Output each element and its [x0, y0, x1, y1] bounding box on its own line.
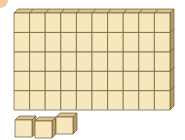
rod-cube-front — [61, 71, 77, 90]
unit-cube-front — [15, 120, 32, 137]
rod-cube-front — [76, 32, 92, 51]
tens-rod — [14, 9, 174, 32]
unit-cube-front — [56, 117, 73, 134]
rod-cube-front — [123, 52, 139, 71]
rod-cube-front — [61, 13, 77, 32]
rod-cube-front — [154, 71, 170, 90]
rod-cube-front — [139, 13, 155, 32]
rod-cube-front — [14, 32, 30, 51]
rod-cube-front — [30, 13, 46, 32]
rod-cube-front — [154, 13, 170, 32]
rod-cube-front — [45, 32, 61, 51]
ones-cube — [15, 116, 36, 137]
ones-cube — [35, 117, 56, 138]
rod-cube-front — [108, 32, 124, 51]
rod-cube-front — [14, 91, 30, 110]
unit-cube-front — [35, 121, 52, 138]
rod-cube-front — [108, 13, 124, 32]
rod-cube-front — [14, 52, 30, 71]
rod-cube-front — [14, 71, 30, 90]
rod-cube-front — [30, 71, 46, 90]
rod-cube-front — [139, 32, 155, 51]
rod-cube-front — [154, 32, 170, 51]
rod-cube-front — [14, 13, 30, 32]
rod-cube-front — [108, 91, 124, 110]
rod-cube-front — [92, 52, 108, 71]
rod-cube-front — [92, 13, 108, 32]
rod-cube-front — [123, 91, 139, 110]
rod-cube-front — [61, 32, 77, 51]
unit-cube-side — [73, 113, 77, 134]
unit-cube-side — [52, 117, 56, 138]
rod-cube-front — [139, 71, 155, 90]
rod-cube-front — [154, 91, 170, 110]
rod-cube-front — [123, 13, 139, 32]
rod-cube-front — [92, 32, 108, 51]
rod-cube-front — [61, 52, 77, 71]
rod-cube-front — [154, 52, 170, 71]
rod-cube-front — [139, 52, 155, 71]
rod-cube-front — [108, 52, 124, 71]
rod-cube-front — [92, 71, 108, 90]
rod-cube-front — [30, 52, 46, 71]
rod-cube-front — [76, 13, 92, 32]
rod-cube-front — [76, 52, 92, 71]
ones-cubes-group — [15, 113, 77, 138]
rod-cube-front — [30, 91, 46, 110]
base-ten-blocks-diagram — [0, 0, 185, 140]
tens-rods-group — [14, 9, 174, 110]
rod-end-side — [170, 9, 174, 32]
rod-cube-front — [139, 91, 155, 110]
rod-cube-front — [45, 91, 61, 110]
rod-cube-front — [61, 91, 77, 110]
rod-cube-front — [76, 91, 92, 110]
rod-cube-front — [92, 91, 108, 110]
rod-cube-front — [45, 52, 61, 71]
ones-cube — [56, 113, 77, 134]
rod-cube-front — [123, 71, 139, 90]
rod-cube-front — [45, 71, 61, 90]
rod-cube-front — [30, 32, 46, 51]
rod-cube-front — [45, 13, 61, 32]
rod-cube-front — [108, 71, 124, 90]
rod-cube-front — [76, 71, 92, 90]
rod-cube-front — [123, 32, 139, 51]
